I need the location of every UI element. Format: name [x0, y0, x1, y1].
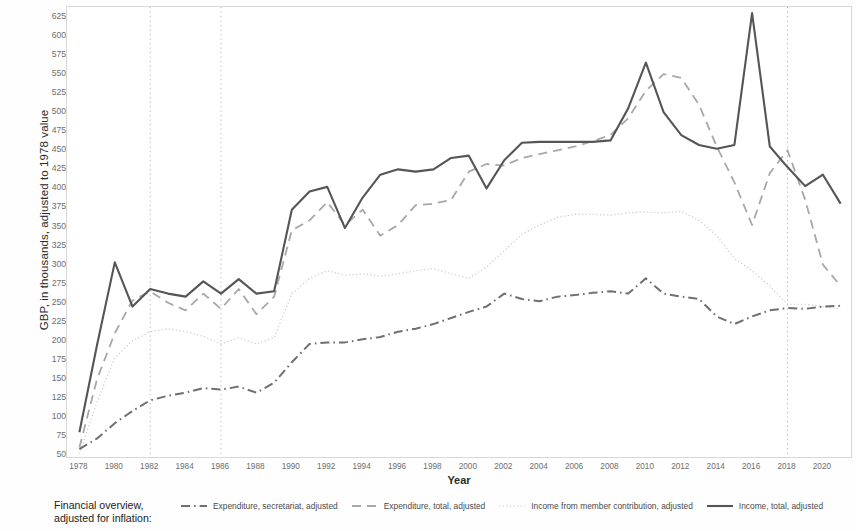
chart-page: GBP, in thousands, adjusted to 1978 valu…	[0, 0, 856, 531]
y-tick-label: 75	[26, 430, 66, 440]
legend-entry[interactable]: Expenditure, secretariat, adjusted	[180, 501, 338, 511]
x-tick-label: 1994	[353, 462, 371, 471]
x-tick-label: 1980	[105, 462, 123, 471]
y-tick-label: 550	[26, 68, 66, 78]
chart-legend: Financial overview, adjusted for inflati…	[0, 498, 856, 531]
y-tick-label: 250	[26, 297, 66, 307]
y-tick-label: 375	[26, 201, 66, 211]
data-series-lines	[79, 13, 840, 454]
x-tick-label: 1990	[282, 462, 300, 471]
series-line	[79, 13, 840, 432]
x-axis-title: Year	[66, 474, 852, 486]
legend-title: Financial overview, adjusted for inflati…	[54, 498, 180, 525]
y-tick-label: 175	[26, 354, 66, 364]
x-tick-label: 2014	[707, 462, 725, 471]
y-tick-label: 125	[26, 392, 66, 402]
y-tick-label: 350	[26, 221, 66, 231]
legend-entry[interactable]: Income, total, adjusted	[706, 501, 823, 511]
y-tick-label: 400	[26, 182, 66, 192]
y-tick-label: 475	[26, 125, 66, 135]
x-tick-label: 2018	[777, 462, 795, 471]
legend-title-line2: adjusted for inflation:	[54, 512, 180, 525]
legend-label: Income, total, adjusted	[739, 501, 823, 511]
y-tick-label: 200	[26, 335, 66, 345]
y-tick-label: 150	[26, 373, 66, 383]
x-tick-label: 1978	[69, 462, 87, 471]
series-line	[79, 211, 840, 453]
vertical-reference-lines	[150, 7, 787, 458]
legend-title-line1: Financial overview,	[54, 499, 180, 512]
legend-swatch-dashdot-icon	[180, 501, 208, 511]
legend-entry[interactable]: Expenditure, total, adjusted	[351, 501, 486, 511]
legend-swatch-dashed-icon	[351, 501, 379, 511]
y-tick-label: 500	[26, 106, 66, 116]
x-tick-label: 1992	[317, 462, 335, 471]
plot-area	[66, 6, 852, 458]
x-tick-label: 2012	[671, 462, 689, 471]
y-tick-label: 300	[26, 259, 66, 269]
x-tick-label: 1982	[140, 462, 158, 471]
y-tick-label: 325	[26, 240, 66, 250]
y-tick-label: 425	[26, 163, 66, 173]
x-tick-label: 2002	[494, 462, 512, 471]
x-tick-label: 2020	[813, 462, 831, 471]
legend-swatch-solid-icon	[706, 501, 734, 511]
y-tick-label: 225	[26, 316, 66, 326]
y-tick-label: 600	[26, 30, 66, 40]
x-tick-label: 2016	[742, 462, 760, 471]
x-tick-label: 2010	[636, 462, 654, 471]
x-tick-label: 1998	[423, 462, 441, 471]
y-tick-label: 575	[26, 49, 66, 59]
y-tick-label: 525	[26, 87, 66, 97]
y-tick-label: 100	[26, 411, 66, 421]
legend-entry[interactable]: Income from member contribution, adjuste…	[498, 501, 693, 511]
x-tick-label: 1986	[211, 462, 229, 471]
legend-swatch-dotted-icon	[498, 501, 526, 511]
legend-label: Expenditure, secretariat, adjusted	[213, 501, 338, 511]
y-tick-label: 50	[26, 449, 66, 459]
legend-label: Income from member contribution, adjuste…	[531, 501, 693, 511]
y-tick-label: 275	[26, 278, 66, 288]
x-tick-label: 2004	[530, 462, 548, 471]
x-tick-label: 1984	[175, 462, 193, 471]
x-tick-label: 2006	[565, 462, 583, 471]
x-tick-label: 2000	[459, 462, 477, 471]
x-tick-label: 1988	[246, 462, 264, 471]
legend-label: Expenditure, total, adjusted	[384, 501, 486, 511]
y-tick-label: 625	[26, 11, 66, 21]
chart-lines	[67, 7, 852, 458]
x-tick-label: 2008	[600, 462, 618, 471]
legend-entries: Expenditure, secretariat, adjustedExpend…	[180, 498, 856, 511]
y-tick-label: 450	[26, 144, 66, 154]
x-tick-label: 1996	[388, 462, 406, 471]
